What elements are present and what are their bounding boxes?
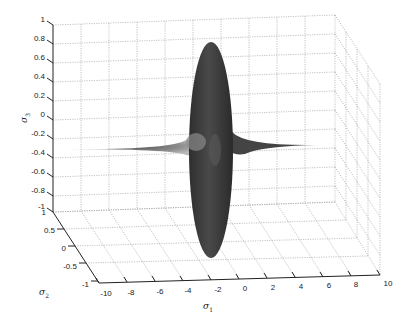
svg-text:6: 6 bbox=[327, 281, 332, 290]
svg-text:0.2: 0.2 bbox=[34, 91, 46, 100]
svg-text:0.5: 0.5 bbox=[44, 226, 56, 235]
y-axis-label: σ2 bbox=[39, 287, 49, 299]
svg-text:0.4: 0.4 bbox=[34, 72, 46, 81]
svg-text:0: 0 bbox=[243, 284, 248, 293]
svg-text:2: 2 bbox=[271, 283, 276, 292]
svg-text:0.8: 0.8 bbox=[34, 34, 46, 43]
svg-text:10: 10 bbox=[384, 279, 393, 288]
svg-text:-0.6: -0.6 bbox=[31, 167, 45, 176]
z-axis-label: σ3 bbox=[19, 113, 31, 123]
svg-text:0.6: 0.6 bbox=[34, 53, 46, 62]
svg-text:0: 0 bbox=[62, 244, 67, 253]
x-axis-label: σ1 bbox=[203, 301, 213, 313]
svg-text:0: 0 bbox=[41, 110, 46, 119]
svg-text:-1: -1 bbox=[82, 280, 90, 289]
svg-text:-2: -2 bbox=[214, 285, 222, 294]
y-axis-ticks: 1 0.5 0 -0.5 -1 bbox=[42, 208, 98, 289]
z-axis-ticks: 1 0.8 0.6 0.4 0.2 0 -0.2 -0.4 -0.6 -0.8 … bbox=[31, 15, 53, 212]
svg-text:4: 4 bbox=[299, 282, 304, 291]
svg-text:-10: -10 bbox=[100, 289, 112, 298]
svg-text:-0.8: -0.8 bbox=[31, 186, 45, 195]
x-axis-ticks: -10 -8 -6 -4 -2 0 2 4 6 8 10 bbox=[96, 270, 393, 298]
svg-text:-0.2: -0.2 bbox=[31, 129, 45, 138]
svg-text:-0.5: -0.5 bbox=[63, 262, 77, 271]
svg-text:-6: -6 bbox=[156, 287, 164, 296]
svg-text:-8: -8 bbox=[127, 288, 135, 297]
svg-text:-4: -4 bbox=[184, 286, 192, 295]
svg-text:1: 1 bbox=[41, 15, 46, 24]
svg-text:8: 8 bbox=[354, 280, 359, 289]
svg-text:1: 1 bbox=[42, 208, 47, 217]
surface-plot: 1 0.8 0.6 0.4 0.2 0 -0.2 -0.4 -0.6 -0.8 … bbox=[0, 0, 418, 324]
svg-text:-0.4: -0.4 bbox=[31, 148, 45, 157]
side-wall-grid bbox=[335, 15, 380, 275]
